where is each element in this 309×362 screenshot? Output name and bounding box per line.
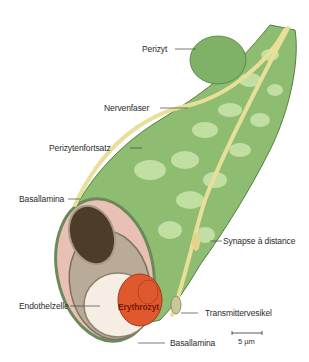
- scale-bar: [232, 331, 262, 335]
- label-endothelzelle: Endothelzelle: [19, 301, 69, 311]
- transmitter-vesicle-cluster: [171, 296, 181, 314]
- label-perizytenfortsatz: Perizytenfortsatz: [49, 143, 111, 153]
- pericyte-body: [190, 36, 246, 84]
- capillary-diagram: Perizyt Nervenfaser Perizytenfortsatz Ba…: [0, 0, 309, 362]
- label-nervenfaser: Nervenfaser: [104, 103, 149, 113]
- synapse-varicosity: [192, 233, 200, 251]
- label-erythrozyt: Erythrozyt: [118, 302, 159, 312]
- label-transmittervesikel: Transmittervesikel: [205, 308, 272, 318]
- label-basallamina-bottom: Basallamina: [170, 338, 215, 348]
- scale-bar-label: 5 µm: [238, 337, 255, 346]
- label-perizyt: Perizyt: [142, 44, 167, 54]
- label-synapse: Synapse à distance: [223, 236, 295, 246]
- label-basallamina-top: Basallamina: [19, 194, 64, 204]
